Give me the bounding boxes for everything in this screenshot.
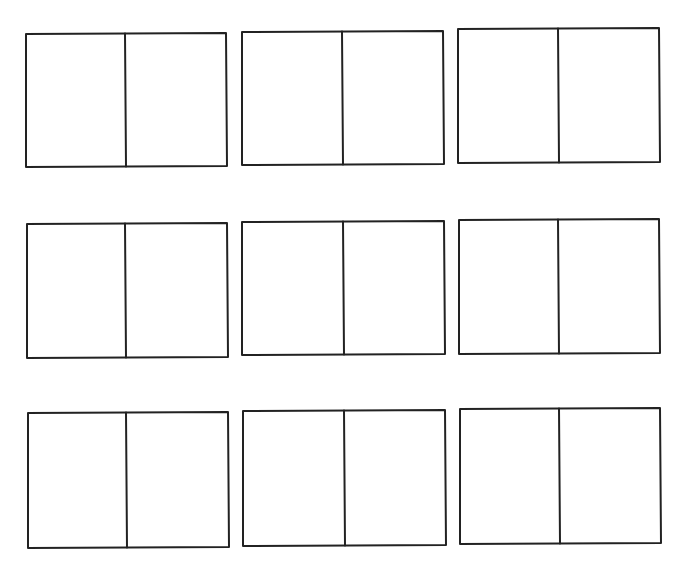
drawing-canvas xyxy=(0,0,691,561)
split-box-3 xyxy=(458,28,660,163)
split-box-4 xyxy=(27,223,228,358)
split-box-9 xyxy=(460,408,661,544)
box-divider xyxy=(343,222,344,355)
split-box-8 xyxy=(243,410,446,546)
box-divider xyxy=(558,29,559,163)
split-box-1 xyxy=(26,33,227,167)
box-divider xyxy=(558,220,559,354)
split-box-5 xyxy=(242,221,445,355)
box-divider xyxy=(342,32,343,165)
split-box-2 xyxy=(242,31,444,165)
box-divider xyxy=(559,409,560,544)
split-box-6 xyxy=(459,219,660,354)
split-box-7 xyxy=(28,412,229,548)
box-outline xyxy=(28,412,229,548)
box-divider xyxy=(125,34,126,167)
box-divider xyxy=(126,413,127,548)
box-outline xyxy=(27,223,228,358)
box-divider xyxy=(344,411,345,546)
box-divider xyxy=(125,224,126,358)
